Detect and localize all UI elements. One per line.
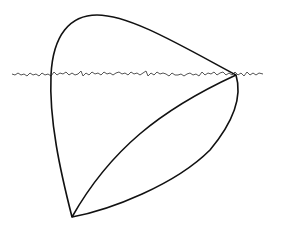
- diagram-canvas: [0, 0, 282, 231]
- wavy-line: [12, 71, 263, 76]
- inner-chord: [72, 75, 236, 217]
- outer-loop: [51, 15, 238, 217]
- diagram-svg: [0, 0, 282, 231]
